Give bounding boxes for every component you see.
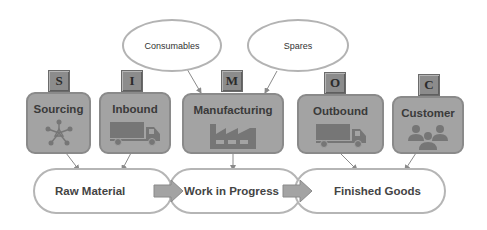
state-label: Finished Goods: [334, 185, 421, 197]
flow-arrow-icon: [153, 180, 185, 202]
stage-sourcing: Sourcing: [26, 92, 91, 154]
letter-badge-m: M: [221, 70, 243, 92]
stage-label: Inbound: [112, 103, 157, 115]
factory-icon: [208, 120, 258, 150]
letter-badge-c: C: [418, 74, 440, 96]
flow-arrow-icon: [282, 180, 314, 202]
state-raw-material: Raw Material: [33, 168, 173, 214]
input-label: Consumables: [144, 41, 199, 51]
stage-label: Manufacturing: [193, 104, 272, 116]
state-label: Raw Material: [55, 185, 125, 197]
truck-icon: [109, 119, 161, 147]
stage-label: Outbound: [313, 105, 368, 117]
stage-label: Sourcing: [34, 103, 84, 115]
state-label: Work in Progress: [184, 185, 279, 197]
truck-icon: [315, 121, 367, 149]
input-spares: Spares: [247, 19, 349, 72]
stage-customer: Customer: [392, 96, 464, 154]
stage-label: Customer: [401, 107, 455, 119]
input-label: Spares: [284, 41, 313, 51]
stage-manufacturing: Manufacturing: [182, 93, 284, 154]
stage-inbound: Inbound: [99, 92, 171, 154]
stage-outbound: Outbound: [297, 94, 384, 154]
input-consumables: Consumables: [122, 19, 222, 72]
network-icon: [44, 119, 74, 147]
state-finished-goods: Finished Goods: [294, 168, 446, 214]
letter-badge-s: S: [48, 70, 70, 92]
letter-badge-i: I: [121, 70, 143, 92]
people-icon: [406, 123, 450, 151]
letter-badge-o: O: [324, 72, 346, 94]
